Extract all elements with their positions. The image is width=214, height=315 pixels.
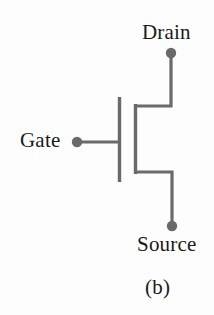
figure-container: Drain Gate Source (b): [0, 0, 214, 315]
drain-node-dot: [166, 48, 176, 58]
transistor-schematic: [0, 0, 214, 315]
gate-node-dot: [72, 137, 82, 147]
figure-background: [0, 0, 214, 315]
drain-terminal-label: Drain: [142, 22, 191, 43]
gate-terminal-label: Gate: [20, 130, 60, 151]
source-terminal-label: Source: [137, 234, 197, 255]
figure-caption: (b): [145, 277, 170, 298]
source-node-dot: [167, 221, 177, 231]
